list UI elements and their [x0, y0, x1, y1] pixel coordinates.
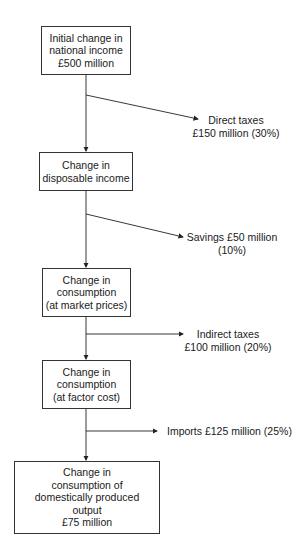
- box-consumption-market-prices: Change in consumption (at market prices): [42, 268, 131, 317]
- leakage-direct-taxes: Direct taxes £150 million (30%): [190, 114, 282, 139]
- leakage-text: Indirect taxes: [182, 328, 274, 341]
- box-text: consumption: [57, 286, 117, 299]
- box-text: £500 million: [58, 57, 114, 70]
- box-text: Change in: [62, 159, 110, 172]
- leakage-savings: Savings £50 million (10%): [186, 231, 278, 256]
- box-text: Change in: [63, 466, 111, 479]
- box-text: Initial change in: [50, 32, 123, 45]
- branch-savings-arrow: [86, 214, 183, 237]
- leakage-indirect-taxes: Indirect taxes £100 million (20%): [182, 328, 274, 353]
- box-text: national income: [49, 44, 123, 57]
- leakage-text: (10%): [186, 244, 278, 257]
- box-text: £75 million: [62, 516, 112, 529]
- leakage-text: Imports £125 million (25%): [167, 425, 292, 438]
- box-text: consumption of: [51, 479, 122, 492]
- leakage-text: £150 million (30%): [190, 127, 282, 140]
- box-text: (at factor cost): [53, 391, 120, 404]
- leakage-text: £100 million (20%): [182, 341, 274, 354]
- box-text: consumption: [57, 378, 117, 391]
- box-text: Change in: [63, 366, 111, 379]
- box-domestic-output: Change in consumption of domestically pr…: [14, 461, 160, 534]
- box-text: output: [72, 504, 101, 517]
- box-initial-change-national-income: Initial change in national income £500 m…: [41, 26, 131, 75]
- leakage-text: Direct taxes: [190, 114, 282, 127]
- box-text: domestically produced: [35, 491, 139, 504]
- box-text: disposable income: [43, 172, 130, 185]
- box-text: Change in: [63, 274, 111, 287]
- box-text: (at market prices): [46, 299, 128, 312]
- box-consumption-factor-cost: Change in consumption (at factor cost): [42, 360, 131, 409]
- branch-direct-taxes-arrow: [86, 95, 198, 119]
- leakage-text: Savings £50 million: [186, 231, 278, 244]
- leakage-imports: Imports £125 million (25%): [167, 425, 292, 438]
- box-change-disposable-income: Change in disposable income: [39, 152, 133, 191]
